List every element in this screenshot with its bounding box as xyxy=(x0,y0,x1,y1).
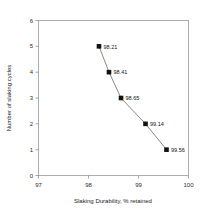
x-axis-title: Slaking Durability, % retained xyxy=(74,198,152,204)
x-axis-tick-labels: 97 98 99 100 xyxy=(35,182,194,188)
data-point-marker xyxy=(119,96,124,101)
data-point-label: 99.56 xyxy=(171,147,185,153)
y-axis-ticks xyxy=(36,21,39,176)
chart-figure: 6 5 4 3 2 1 0 97 98 99 100 98.2198.4198.… xyxy=(0,0,202,214)
y-tick-label: 4 xyxy=(30,69,34,75)
x-tick-label: 97 xyxy=(35,182,42,188)
y-tick-label: 6 xyxy=(30,18,34,24)
y-axis-title: Number of slaking cycles xyxy=(6,65,12,132)
data-point-marker xyxy=(143,122,148,127)
y-tick-label: 5 xyxy=(30,43,34,49)
y-tick-label: 1 xyxy=(30,147,34,153)
chart-canvas: 6 5 4 3 2 1 0 97 98 99 100 98.2198.4198.… xyxy=(0,0,202,214)
x-tick-label: 100 xyxy=(183,182,194,188)
series-point-labels: 98.2198.4198.6599.1499.56 xyxy=(104,44,185,153)
x-tick-label: 99 xyxy=(135,182,142,188)
y-tick-label: 0 xyxy=(30,173,34,179)
data-point-label: 98.65 xyxy=(126,95,140,101)
data-point-marker xyxy=(97,44,102,49)
data-point-marker xyxy=(107,70,112,75)
data-point-label: 98.21 xyxy=(104,44,118,50)
y-axis-tick-labels: 6 5 4 3 2 1 0 xyxy=(30,18,34,179)
y-tick-label: 3 xyxy=(30,95,34,101)
data-point-label: 98.41 xyxy=(114,69,128,75)
y-tick-label: 2 xyxy=(30,121,34,127)
x-tick-label: 98 xyxy=(85,182,92,188)
x-axis-ticks xyxy=(39,176,189,179)
data-point-marker xyxy=(164,147,169,152)
data-point-label: 99.14 xyxy=(150,121,164,127)
